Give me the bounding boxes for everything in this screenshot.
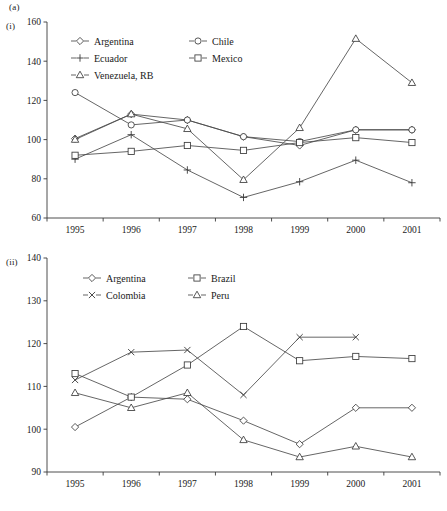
y-tick-label: 90 <box>32 467 42 477</box>
y-tick-label: 140 <box>27 253 42 263</box>
x-tick-label: 2000 <box>346 225 365 235</box>
series-brazil <box>72 323 415 400</box>
y-tick-label: 100 <box>27 425 42 435</box>
y-tick-label: 110 <box>27 382 41 392</box>
x-tick-label: 1996 <box>122 479 141 489</box>
triangle-marker <box>71 389 78 396</box>
diamond-marker <box>296 441 303 448</box>
x-tick-label: 1996 <box>122 225 141 235</box>
legend-triangle-icon <box>193 291 200 298</box>
legend-label: Mexico <box>212 53 243 64</box>
diamond-marker <box>184 396 191 403</box>
plus-marker <box>184 166 191 173</box>
x-tick-label: 1999 <box>290 479 309 489</box>
chart-panel-ii: 9010011012013014019951996199719981999200… <box>0 252 447 511</box>
square-marker <box>184 362 190 368</box>
cross-marker <box>72 377 78 383</box>
legend-square-icon <box>195 55 201 61</box>
diamond-marker <box>352 404 359 411</box>
x-tick-label: 2001 <box>402 479 421 489</box>
legend-diamond-icon <box>76 37 83 44</box>
chart-panel-i: 6080100120140160199519961997199819992000… <box>0 10 447 252</box>
legend-circle-icon <box>195 38 201 44</box>
x-tick-label: 1997 <box>178 225 197 235</box>
square-marker <box>72 370 78 376</box>
plus-marker <box>296 178 303 185</box>
square-marker <box>128 148 134 154</box>
circle-marker <box>240 134 246 140</box>
legend-label: Ecuador <box>94 53 128 64</box>
plus-marker <box>408 179 415 186</box>
square-marker <box>240 323 246 329</box>
triangle-marker <box>352 35 359 42</box>
legend-label: Peru <box>211 290 229 301</box>
square-marker <box>128 394 134 400</box>
triangle-marker <box>240 436 247 443</box>
plus-marker <box>128 131 135 138</box>
circle-marker <box>409 127 415 133</box>
circle-marker <box>184 117 190 123</box>
legend: ArgentinaBrazilColombiaPeru <box>83 273 236 301</box>
legend-label: Colombia <box>106 290 146 301</box>
x-tick-label: 1999 <box>290 225 309 235</box>
plus-marker <box>352 156 359 163</box>
series-path <box>75 393 412 457</box>
triangle-marker <box>408 79 415 86</box>
legend-plus-icon <box>76 54 83 61</box>
triangle-marker <box>352 443 359 450</box>
x-tick-label: 2000 <box>346 479 365 489</box>
square-marker <box>297 358 303 364</box>
y-tick-label: 100 <box>27 135 42 145</box>
diamond-marker <box>71 423 78 430</box>
series-path <box>75 326 412 397</box>
plus-marker <box>240 194 247 201</box>
x-tick-label: 1995 <box>66 479 85 489</box>
circle-marker <box>72 89 78 95</box>
legend-label: Argentina <box>94 36 134 47</box>
diamond-marker <box>240 417 247 424</box>
legend-label: Chile <box>212 36 234 47</box>
triangle-marker <box>184 389 191 396</box>
triangle-marker <box>296 124 303 131</box>
y-tick-label: 120 <box>27 339 42 349</box>
circle-marker <box>353 127 359 133</box>
y-tick-label: 130 <box>27 296 42 306</box>
legend-cross-icon <box>89 292 95 298</box>
square-marker <box>353 353 359 359</box>
diamond-marker <box>408 404 415 411</box>
legend-diamond-icon <box>88 274 95 281</box>
axes: 6080100120140160199519961997199819992000… <box>27 17 440 234</box>
legend: ArgentinaChileEcuadorMexicoVenezuela, RB <box>71 36 243 81</box>
square-marker <box>240 147 246 153</box>
circle-marker <box>128 122 134 128</box>
y-tick-label: 60 <box>32 213 42 223</box>
series-ecuador <box>71 131 415 201</box>
series-colombia <box>72 334 359 398</box>
legend-square-icon <box>194 275 200 281</box>
x-tick-label: 1998 <box>234 479 253 489</box>
x-tick-label: 1995 <box>66 225 85 235</box>
y-tick-label: 140 <box>27 57 42 67</box>
axes: 9010011012013014019951996199719981999200… <box>27 253 440 488</box>
figure-container: (a) (i) (ii) 608010012014016019951996199… <box>0 0 447 511</box>
y-tick-label: 80 <box>32 174 42 184</box>
cross-marker <box>240 392 246 398</box>
series-path <box>75 135 412 198</box>
series-group <box>71 323 415 459</box>
square-marker <box>409 355 415 361</box>
legend-triangle-icon <box>76 71 83 78</box>
square-marker <box>353 135 359 141</box>
square-marker <box>184 142 190 148</box>
y-tick-label: 120 <box>27 96 42 106</box>
square-marker <box>72 152 78 158</box>
x-tick-label: 1997 <box>178 479 197 489</box>
square-marker <box>409 139 415 145</box>
legend-label: Venezuela, RB <box>94 70 154 81</box>
y-tick-label: 160 <box>27 17 42 27</box>
x-tick-label: 2001 <box>402 225 421 235</box>
legend-label: Brazil <box>211 273 236 284</box>
square-marker <box>297 139 303 145</box>
x-tick-label: 1998 <box>234 225 253 235</box>
legend-label: Argentina <box>106 273 146 284</box>
